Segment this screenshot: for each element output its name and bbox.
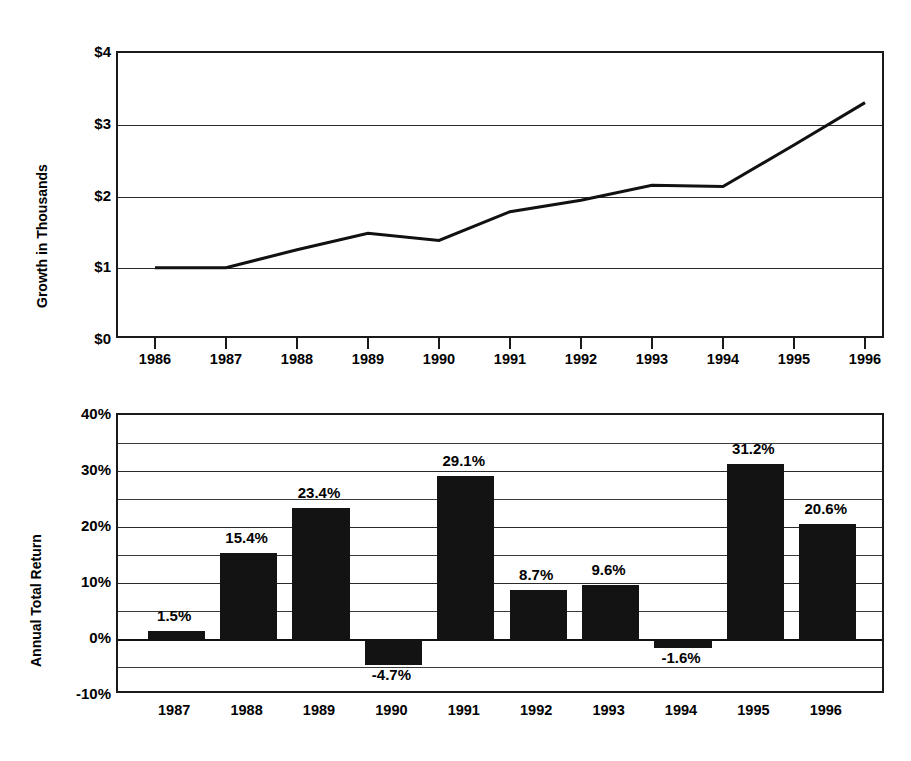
line-chart-x-tick-mark: [651, 338, 653, 349]
line-chart-x-tick-mark: [580, 338, 582, 349]
annual-total-return-bar-chart: Annual Total Return 40%30%20%10%0%-10% 1…: [0, 372, 911, 761]
bar-chart-data-label: 1.5%: [131, 607, 217, 624]
bar-chart-bar: [292, 508, 349, 639]
line-chart-series-layer: [0, 0, 911, 372]
bar-chart-x-tick-label: 1992: [500, 702, 572, 718]
bar-chart-data-label: -4.7%: [348, 666, 434, 683]
bar-chart-bar: [654, 639, 711, 648]
line-chart-x-tick-label: 1995: [759, 351, 829, 367]
bar-chart-bar: [727, 464, 784, 639]
two-panel-performance-figure: Growth in Thousands $0$1$2$3$4 198619871…: [0, 0, 911, 761]
bar-chart-y-tick-label: -10%: [0, 685, 111, 702]
bar-chart-y-tick-label: 0%: [0, 629, 111, 646]
bar-chart-x-tick-label: 1990: [355, 702, 427, 718]
bar-chart-y-tick-label: 20%: [0, 517, 111, 534]
line-chart-x-tick-label: 1988: [262, 351, 332, 367]
bar-chart-data-label: 31.2%: [710, 440, 796, 457]
bar-chart-x-tick-label: 1994: [645, 702, 717, 718]
growth-line-chart: Growth in Thousands $0$1$2$3$4 198619871…: [0, 0, 911, 372]
bar-chart-bar: [582, 585, 639, 639]
bar-chart-data-label: 9.6%: [566, 561, 652, 578]
bar-chart-data-label: 20.6%: [783, 500, 869, 517]
bar-chart-x-tick-label: 1991: [428, 702, 500, 718]
bar-chart-data-label: 15.4%: [204, 529, 290, 546]
bar-chart-bar: [148, 631, 205, 639]
line-chart-x-tick-label: 1989: [333, 351, 403, 367]
bar-chart-bar: [799, 524, 856, 639]
bar-chart-x-tick-label: 1987: [138, 702, 210, 718]
bar-chart-y-tick-label: 40%: [0, 405, 111, 422]
bar-chart-minor-gridline: [118, 667, 882, 668]
line-chart-x-tick-mark: [154, 338, 156, 349]
bar-chart-x-tick-label: 1993: [573, 702, 645, 718]
bar-chart-y-tick-label: 10%: [0, 573, 111, 590]
line-chart-x-tick-mark: [793, 338, 795, 349]
line-chart-x-tick-mark: [225, 338, 227, 349]
bar-chart-data-label: 29.1%: [421, 452, 507, 469]
growth-series-line: [155, 103, 865, 268]
line-chart-x-tick-label: 1991: [475, 351, 545, 367]
line-chart-x-tick-label: 1993: [617, 351, 687, 367]
bar-chart-x-tick-label: 1989: [283, 702, 355, 718]
line-chart-x-tick-mark: [509, 338, 511, 349]
bar-chart-bar: [437, 476, 494, 639]
bar-chart-data-label: 23.4%: [276, 484, 362, 501]
line-chart-x-tick-label: 1996: [830, 351, 900, 367]
bar-chart-zero-baseline: [118, 639, 882, 641]
bar-chart-bar: [510, 590, 567, 639]
line-chart-x-tick-mark: [367, 338, 369, 349]
line-chart-x-tick-label: 1992: [546, 351, 616, 367]
line-chart-x-tick-label: 1987: [191, 351, 261, 367]
bar-chart-x-tick-label: 1996: [790, 702, 862, 718]
line-chart-x-tick-label: 1990: [404, 351, 474, 367]
bar-chart-x-tick-label: 1988: [211, 702, 283, 718]
bar-chart-x-tick-label: 1995: [717, 702, 789, 718]
line-chart-x-tick-mark: [722, 338, 724, 349]
bar-chart-data-label: -1.6%: [638, 649, 724, 666]
bar-chart-bar: [220, 553, 277, 639]
line-chart-x-tick-label: 1994: [688, 351, 758, 367]
line-chart-x-tick-mark: [864, 338, 866, 349]
bar-chart-y-tick-label: 30%: [0, 461, 111, 478]
bar-chart-bar: [365, 639, 422, 665]
line-chart-x-tick-label: 1986: [120, 351, 190, 367]
line-chart-x-tick-mark: [296, 338, 298, 349]
line-chart-x-tick-mark: [438, 338, 440, 349]
